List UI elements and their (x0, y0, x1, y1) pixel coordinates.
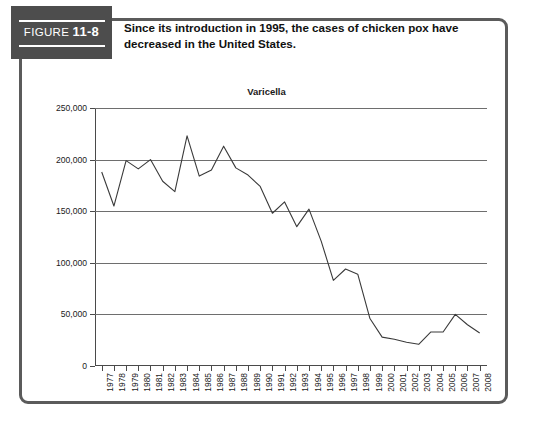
x-tick-label: 1981 (154, 373, 164, 392)
x-tick-label: 1994 (313, 373, 323, 392)
x-tick-label: 1990 (264, 373, 274, 392)
x-tick-label: 2000 (386, 373, 396, 392)
x-tick-label: 2008 (483, 373, 493, 392)
x-tick-label: 1989 (252, 373, 262, 392)
x-tick-mark (285, 366, 286, 371)
x-tick-mark (163, 366, 164, 371)
x-tick-mark (443, 366, 444, 371)
x-tick-mark (126, 366, 127, 371)
x-tick-label: 1998 (361, 373, 371, 392)
x-tick-mark (321, 366, 322, 371)
x-tick-label: 2007 (471, 373, 481, 392)
x-tick-mark (187, 366, 188, 371)
x-tick-label: 1992 (288, 373, 298, 392)
series-line (102, 136, 480, 344)
y-tick-mark (90, 366, 95, 367)
x-tick-label: 2002 (410, 373, 420, 392)
x-tick-label: 1978 (117, 373, 127, 392)
figure-label-word: FIGURE (24, 26, 69, 38)
chart-plot-area: 050,000100,000150,000200,000250,000 1977… (95, 108, 487, 366)
badge-rule-bottom (19, 45, 105, 47)
x-tick-mark (199, 366, 200, 371)
x-tick-mark (102, 366, 103, 371)
varicella-line-series (95, 108, 487, 366)
x-tick-mark (175, 366, 176, 371)
x-tick-mark (309, 366, 310, 371)
x-tick-mark (248, 366, 249, 371)
x-tick-label: 1987 (227, 373, 237, 392)
x-tick-mark (260, 366, 261, 371)
x-tick-mark (394, 366, 395, 371)
x-tick-label: 1997 (349, 373, 359, 392)
x-tick-mark (419, 366, 420, 371)
x-tick-label: 1982 (166, 373, 176, 392)
x-tick-mark (297, 366, 298, 371)
badge-rule-top (19, 20, 105, 22)
x-tick-label: 1991 (276, 373, 286, 392)
x-tick-label: 2004 (435, 373, 445, 392)
y-tick-label: 0 (82, 361, 87, 371)
x-tick-mark (272, 366, 273, 371)
x-tick-mark (211, 366, 212, 371)
x-tick-mark (431, 366, 432, 371)
x-tick-label: 1988 (239, 373, 249, 392)
x-tick-label: 1979 (130, 373, 140, 392)
x-tick-label: 1983 (178, 373, 188, 392)
y-tick-label: 50,000 (61, 309, 87, 319)
x-tick-mark (333, 366, 334, 371)
x-tick-mark (114, 366, 115, 371)
x-tick-label: 1980 (142, 373, 152, 392)
x-tick-mark (138, 366, 139, 371)
x-tick-mark (346, 366, 347, 371)
y-tick-label: 250,000 (56, 103, 87, 113)
x-tick-mark (407, 366, 408, 371)
figure-caption: Since its introduction in 1995, the case… (124, 20, 474, 52)
x-tick-mark (480, 366, 481, 371)
chart-title: Varicella (0, 86, 533, 97)
figure-label-number: 11-8 (73, 24, 100, 39)
x-tick-mark (455, 366, 456, 371)
x-tick-mark (382, 366, 383, 371)
figure-panel: FIGURE 11-8 Since its introduction in 19… (0, 0, 533, 423)
x-tick-label: 2006 (459, 373, 469, 392)
x-tick-mark (150, 366, 151, 371)
x-tick-label: 1993 (300, 373, 310, 392)
x-tick-label: 1996 (337, 373, 347, 392)
x-tick-mark (224, 366, 225, 371)
x-tick-mark (370, 366, 371, 371)
x-tick-label: 2005 (447, 373, 457, 392)
x-tick-mark (236, 366, 237, 371)
x-tick-label: 1986 (215, 373, 225, 392)
x-tick-mark (467, 366, 468, 371)
x-tick-label: 1977 (105, 373, 115, 392)
figure-badge-text: FIGURE 11-8 (11, 25, 112, 39)
figure-badge: FIGURE 11-8 (11, 6, 112, 59)
x-tick-label: 2001 (398, 373, 408, 392)
x-tick-label: 2003 (422, 373, 432, 392)
x-tick-label: 1999 (374, 373, 384, 392)
y-tick-label: 150,000 (56, 206, 87, 216)
y-tick-label: 200,000 (56, 155, 87, 165)
x-tick-label: 1984 (191, 373, 201, 392)
y-tick-label: 100,000 (56, 258, 87, 268)
x-tick-label: 1995 (325, 373, 335, 392)
x-tick-label: 1985 (203, 373, 213, 392)
x-tick-mark (358, 366, 359, 371)
